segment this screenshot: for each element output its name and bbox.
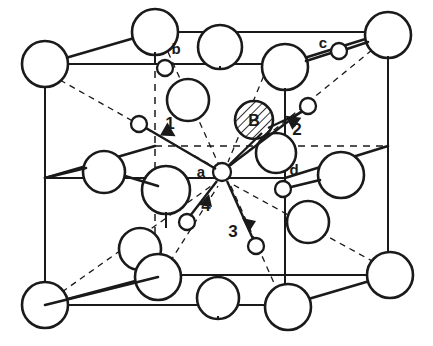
site-d-atom [275, 181, 291, 197]
site-b-atom [157, 60, 173, 76]
target-atom-3 [248, 238, 264, 254]
label-atom-B: B [248, 112, 260, 129]
site-c-atom [331, 43, 347, 59]
atom-corner-top-back-right [365, 12, 411, 58]
label-site-d: d [289, 161, 298, 178]
atom-face-top-mid [198, 25, 242, 69]
atom-corner-bottom-back-right [367, 252, 413, 298]
label-direction-3: 3 [228, 222, 237, 241]
label-site-c: c [319, 34, 327, 51]
target-atom-4 [179, 214, 195, 230]
atom-corner-top-back-left [22, 41, 68, 87]
jump-vector-3-arrowhead [242, 218, 256, 232]
label-direction-1: 1 [165, 114, 174, 133]
label-site-a: a [197, 163, 206, 180]
atom-face-center-left [142, 166, 190, 214]
crystal-unit-cell-diagram: a b c d B 1 2 3 4 [0, 0, 433, 346]
target-atom-1 [131, 116, 147, 132]
crystal-structure-figure: a b c d B 1 2 3 4 [0, 0, 433, 346]
atom-labels-group: B [248, 112, 260, 129]
label-site-b: b [171, 40, 180, 57]
atom-corner-top-front-right [262, 44, 308, 90]
label-direction-2: 2 [292, 120, 301, 139]
atom-corner-bottom-front-right [265, 284, 311, 330]
label-direction-4: 4 [201, 196, 211, 215]
bond-to-site-d-right [291, 180, 320, 187]
atom-edge-right-mid [318, 152, 364, 198]
atom-face-bottom-mid [197, 277, 239, 319]
atom-interior-right-lower [287, 201, 329, 243]
bond-front-left-to-edge-mid [45, 168, 86, 178]
atom-edge-left-mid [83, 151, 125, 193]
